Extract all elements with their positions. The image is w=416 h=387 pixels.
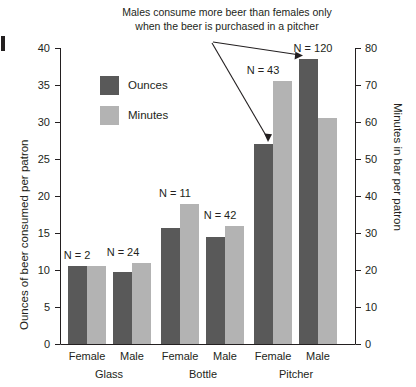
right-tick-70: 70 [365,79,391,91]
x-label-bottle-female: Female [155,350,205,362]
right-tick-10: 10 [365,301,391,313]
bar-minutes-glass-female [87,266,106,344]
legend-swatch-minutes [100,106,119,125]
right-tick-60: 60 [365,116,391,128]
legend-label-ounces: Ounces [128,79,168,91]
bar-minutes-pitcher-female [273,81,292,344]
left-axis-title: Ounces of beer consumed per patron [18,139,30,330]
n-label-bottle-male: N = 42 [197,209,243,221]
x-label-bottle-male: Male [200,350,250,362]
chart-annotation: Males consume more beer than females onl… [112,6,342,33]
group-label-bottle: Bottle [178,368,228,380]
x-label-glass-female: Female [62,350,112,362]
bar-minutes-pitcher-male [318,118,337,344]
annotation-line-1: Males consume more beer than females onl… [122,6,332,18]
group-label-glass: Glass [84,368,134,380]
left-tick-40: 40 [24,42,50,54]
left-tick-35: 35 [24,79,50,91]
right-axis-ticks [356,49,362,345]
right-tick-50: 50 [365,153,391,165]
right-tick-0: 0 [365,338,391,350]
bar-ounces-pitcher-female [254,144,273,344]
right-tick-30: 30 [365,227,391,239]
legend-label-minutes: Minutes [128,109,168,121]
bar-ounces-bottle-male [206,237,225,344]
right-tick-80: 80 [365,42,391,54]
x-label-pitcher-male: Male [293,350,343,362]
right-tick-20: 20 [365,264,391,276]
right-tick-40: 40 [365,190,391,202]
group-label-pitcher: Pitcher [271,368,321,380]
bar-ounces-pitcher-male [299,59,318,344]
bar-minutes-bottle-female [180,204,199,344]
left-tick-30: 30 [24,116,50,128]
n-label-pitcher-female: N = 43 [240,64,286,76]
n-label-glass-female: N = 2 [57,249,97,261]
left-tick-0: 0 [24,338,50,350]
n-label-bottle-female: N = 11 [152,187,198,199]
beer-consumption-bar-chart [0,0,416,387]
left-axis-ticks [55,49,61,345]
bar-ounces-bottle-female [161,228,180,344]
x-label-pitcher-female: Female [248,350,298,362]
legend-swatch-ounces [100,76,119,95]
annotation-line-2: when the beer is purchased in a pitcher [135,20,318,32]
n-label-glass-male: N = 24 [100,246,146,258]
bar-minutes-bottle-male [225,226,244,344]
n-label-pitcher-male: N = 120 [287,42,339,54]
bar-ounces-glass-female [68,266,87,344]
bar-ounces-glass-male [113,272,132,344]
bar-minutes-glass-male [132,263,151,344]
right-axis-title: Minutes in bar per patron [392,103,404,231]
x-label-glass-male: Male [107,350,157,362]
